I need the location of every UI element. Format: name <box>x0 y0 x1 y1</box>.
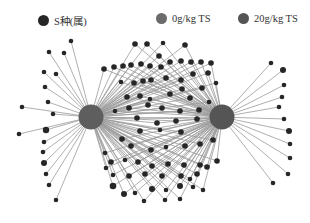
species-node <box>42 140 47 145</box>
species-node <box>103 151 108 156</box>
species-node <box>179 86 185 92</box>
species-node <box>142 199 147 204</box>
species-node <box>167 59 173 65</box>
species-node <box>159 105 165 111</box>
species-node <box>108 159 114 165</box>
species-node <box>280 67 286 73</box>
species-node <box>204 164 210 170</box>
species-node <box>104 166 109 171</box>
species-node <box>288 142 293 147</box>
species-node <box>156 53 162 59</box>
species-node <box>20 105 25 110</box>
species-node <box>282 117 287 122</box>
species-node <box>110 183 117 190</box>
species-node <box>135 159 141 165</box>
species-node <box>181 162 187 168</box>
species-node <box>111 64 117 70</box>
hub-node-0g <box>79 105 104 130</box>
species-node <box>164 145 169 150</box>
species-node <box>177 183 183 189</box>
species-node <box>120 63 126 69</box>
species-node <box>119 136 125 142</box>
species-node <box>197 162 203 168</box>
species-node <box>280 95 285 100</box>
species-node <box>277 105 282 110</box>
species-node <box>43 85 48 90</box>
species-node <box>142 171 148 177</box>
species-node <box>51 112 56 117</box>
species-node <box>178 197 183 202</box>
species-node <box>286 128 292 134</box>
species-node <box>165 161 171 167</box>
species-node <box>134 115 140 121</box>
species-node <box>198 59 204 65</box>
species-node <box>148 77 154 83</box>
species-node <box>190 71 196 77</box>
species-node <box>148 97 153 102</box>
species-node <box>126 105 132 111</box>
species-node <box>101 66 107 72</box>
species-node <box>178 129 184 135</box>
species-node <box>207 100 212 105</box>
species-node <box>119 80 124 85</box>
species-node <box>47 183 52 188</box>
species-node <box>149 186 155 192</box>
species-node <box>128 143 134 149</box>
species-node <box>214 158 220 164</box>
species-node <box>132 41 138 47</box>
species-node <box>163 198 168 203</box>
species-node <box>140 78 146 84</box>
species-node <box>149 163 155 169</box>
species-node <box>182 42 188 48</box>
hub-node-20g <box>210 105 235 130</box>
species-node <box>163 75 169 81</box>
species-node <box>47 50 52 55</box>
species-node <box>178 77 184 83</box>
species-node <box>288 156 293 161</box>
species-node <box>111 173 116 178</box>
species-node <box>187 95 193 101</box>
species-node <box>214 81 219 86</box>
species-node <box>158 64 164 70</box>
species-node <box>138 61 144 67</box>
species-node <box>128 62 134 68</box>
species-node <box>43 127 49 133</box>
species-node <box>148 147 154 153</box>
species-node <box>286 172 291 177</box>
species-node <box>161 41 166 46</box>
network-diagram <box>0 0 310 223</box>
species-node <box>178 58 184 64</box>
species-node <box>44 172 49 177</box>
species-node <box>41 150 46 155</box>
network-edges <box>19 41 290 201</box>
species-node <box>147 63 153 69</box>
species-node <box>137 128 143 134</box>
species-node <box>167 91 173 97</box>
species-node <box>201 188 206 193</box>
species-node <box>17 132 22 137</box>
species-node <box>41 160 47 166</box>
species-node <box>144 41 150 47</box>
species-node <box>123 158 128 163</box>
species-node <box>158 128 163 133</box>
species-node <box>197 141 203 147</box>
species-node <box>269 61 274 66</box>
species-node <box>145 102 151 108</box>
species-node <box>282 83 287 88</box>
species-node <box>208 60 214 66</box>
species-node <box>62 51 67 56</box>
species-node <box>173 118 179 124</box>
species-node <box>54 72 59 77</box>
species-node <box>42 70 47 75</box>
species-node <box>271 181 276 186</box>
species-node <box>205 70 211 76</box>
species-node <box>164 188 169 193</box>
species-node <box>188 177 193 182</box>
species-node <box>194 171 200 177</box>
species-node <box>178 173 184 179</box>
species-node <box>133 191 138 196</box>
species-node <box>159 173 165 179</box>
species-node <box>131 80 137 86</box>
species-node <box>177 108 183 114</box>
species-node <box>124 94 130 100</box>
